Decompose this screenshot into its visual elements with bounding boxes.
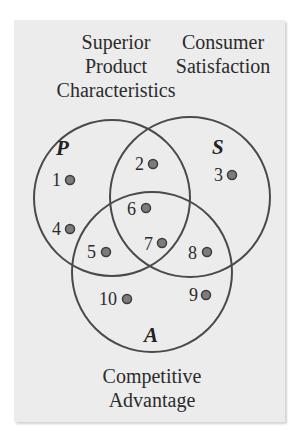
point-label: 2 <box>135 154 144 174</box>
point-label: 5 <box>87 242 96 262</box>
set-a-letter: A <box>142 323 158 347</box>
point-1: 1 <box>52 170 75 190</box>
point-7: 7 <box>144 234 167 254</box>
point-dot <box>66 176 75 185</box>
point-5: 5 <box>87 242 111 262</box>
point-dot <box>149 160 158 169</box>
point-9: 9 <box>189 285 211 305</box>
point-dot <box>66 225 75 234</box>
point-dot <box>203 248 212 257</box>
point-4: 4 <box>52 219 75 239</box>
point-label: 3 <box>214 165 223 185</box>
point-label: 10 <box>99 289 117 309</box>
point-3: 3 <box>214 165 237 185</box>
set-p-letter: P <box>55 136 69 160</box>
point-dot <box>158 239 167 248</box>
point-2: 2 <box>135 154 158 174</box>
point-dot <box>202 291 211 300</box>
point-dot <box>102 248 111 257</box>
point-dot <box>123 295 132 304</box>
point-label: 6 <box>127 199 136 219</box>
point-label: 9 <box>189 285 198 305</box>
point-label: 8 <box>188 243 197 263</box>
point-10: 10 <box>99 289 132 309</box>
point-8: 8 <box>188 243 212 263</box>
point-label: 1 <box>52 170 61 190</box>
set-s-letter: S <box>212 135 224 159</box>
point-label: 4 <box>52 219 61 239</box>
point-dot <box>228 171 237 180</box>
point-dot <box>142 204 151 213</box>
point-6: 6 <box>127 199 151 219</box>
venn-diagram: P S A 1 2 3 4 5 6 7 8 9 10 <box>0 0 297 444</box>
point-label: 7 <box>144 234 153 254</box>
